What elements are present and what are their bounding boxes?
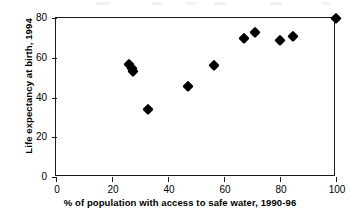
plot-area: 020406080020406080100	[55, 17, 335, 176]
data-point-marker	[238, 33, 249, 44]
y-axis-title: Life expectancy at birth, 1994	[23, 0, 35, 176]
y-axis-tick-label: 80	[36, 12, 47, 24]
y-axis-tick: 20	[52, 137, 57, 138]
y-axis-tick-label: 60	[36, 52, 47, 64]
data-point-marker	[287, 31, 298, 42]
x-axis-tick-label: 100	[329, 184, 346, 196]
x-axis-tick: 40	[168, 177, 169, 182]
data-point-marker	[209, 59, 220, 70]
scan-artifact	[186, 2, 196, 5]
scan-artifact	[322, 2, 331, 5]
x-axis-tick-label: 20	[107, 184, 118, 196]
data-point-marker	[249, 27, 260, 38]
x-axis-tick: 60	[224, 177, 225, 182]
data-point-marker	[275, 35, 286, 46]
x-axis-tick: 20	[112, 177, 113, 182]
x-axis-title: % of population with access to safe wate…	[0, 197, 360, 209]
y-axis-tick: 40	[52, 98, 57, 99]
scan-artifact	[152, 2, 163, 5]
x-axis-tick-label: 80	[275, 184, 286, 196]
data-point-marker	[331, 13, 342, 24]
x-axis-tick: 80	[280, 177, 281, 182]
y-axis-tick-label: 40	[36, 92, 47, 104]
y-axis-tick-label: 0	[41, 171, 47, 183]
x-axis-tick-label: 40	[163, 184, 174, 196]
data-point-marker	[182, 80, 193, 91]
y-axis-tick: 60	[52, 58, 57, 59]
scan-artifact	[96, 2, 110, 5]
data-point-marker	[143, 104, 154, 115]
y-axis-tick: 80	[52, 18, 57, 19]
x-axis-tick: 0	[56, 177, 57, 182]
x-axis-tick-label: 60	[219, 184, 230, 196]
x-axis-tick: 100	[336, 177, 337, 182]
y-axis-tick-label: 20	[36, 131, 47, 143]
scan-artifact	[270, 2, 282, 5]
scan-artifact	[214, 2, 227, 5]
scatter-chart: Life expectancy at birth, 1994 020406080…	[0, 0, 360, 221]
x-axis-tick-label: 0	[54, 184, 60, 196]
